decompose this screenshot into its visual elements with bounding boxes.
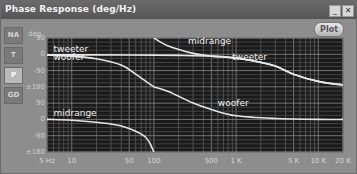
curve-label-tweeter: tweeter: [232, 52, 267, 62]
phase-chart: tweeterwoofermidrangetweeterwoofermidran…: [0, 0, 357, 174]
curve-label-woofer: woofer: [218, 98, 249, 108]
curve-label-woofer: woofer: [54, 52, 85, 62]
curve-label-midrange: midrange: [54, 108, 98, 118]
curve-label-midrange: midrange: [188, 36, 232, 46]
